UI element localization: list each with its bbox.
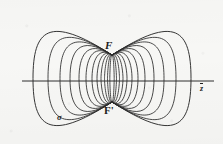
right-lobe-curve-group xyxy=(112,31,191,125)
coaxial-arc xyxy=(112,51,138,107)
coaxial-arc xyxy=(33,31,112,125)
coaxial-arc xyxy=(79,49,112,109)
surface-label-sigma: σ xyxy=(57,113,62,122)
left-lobe-curve-group xyxy=(33,31,112,125)
focus-label-F: F xyxy=(105,40,112,51)
coaxial-arc xyxy=(112,31,191,125)
figure-canvas: F F' σ z xyxy=(0,0,223,144)
axis-label-z: z xyxy=(200,83,203,93)
coaxial-arc xyxy=(86,51,112,107)
coaxial-arc xyxy=(110,55,112,102)
coaxial-circles-plot xyxy=(0,0,223,144)
coaxial-arc xyxy=(112,49,145,109)
axis-label-z-text: z xyxy=(200,84,203,93)
coaxial-arc xyxy=(112,55,114,102)
focus-label-F-prime: F' xyxy=(104,105,114,116)
